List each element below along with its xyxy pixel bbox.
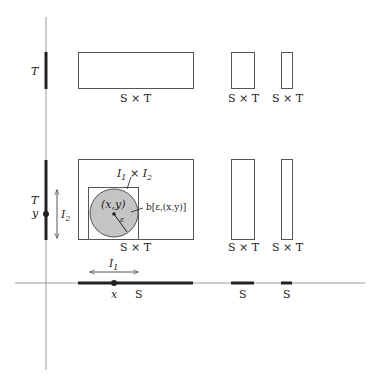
i1-times-i2-label: I1 × I2 — [116, 167, 152, 182]
s-label-2: S — [239, 288, 247, 301]
x-label: x — [111, 288, 118, 301]
top-rect-1 — [79, 53, 194, 89]
y-label: y — [31, 207, 39, 220]
i2-label: I2 — [60, 208, 70, 223]
product-space-diagram: T T y I2 I1 x S S S S × T S × T S × T S … — [0, 0, 380, 384]
middle-rect-1-label: S × T — [120, 241, 152, 254]
s-label-3: S — [283, 288, 291, 301]
top-rect-2 — [232, 53, 255, 89]
top-rect-3-label: S × T — [272, 92, 304, 105]
y-point — [43, 211, 49, 217]
middle-rect-3 — [282, 160, 293, 240]
x-point — [111, 280, 117, 286]
middle-rect-3-label: S × T — [272, 241, 304, 254]
middle-rect-2-label: S × T — [228, 241, 260, 254]
t-label-top: T — [31, 65, 40, 78]
center-label: (x,y) — [101, 198, 126, 211]
ball-label: b[ε,(x,y)] — [146, 202, 186, 212]
s-label-1: S — [135, 288, 143, 301]
top-rect-1-label: S × T — [120, 92, 152, 105]
top-rect-3 — [282, 53, 293, 89]
t-label-middle: T — [31, 194, 40, 207]
top-rect-2-label: S × T — [228, 92, 260, 105]
i1-label: I1 — [108, 257, 118, 272]
epsilon-label: ε — [120, 215, 124, 224]
middle-rect-2 — [232, 160, 255, 240]
